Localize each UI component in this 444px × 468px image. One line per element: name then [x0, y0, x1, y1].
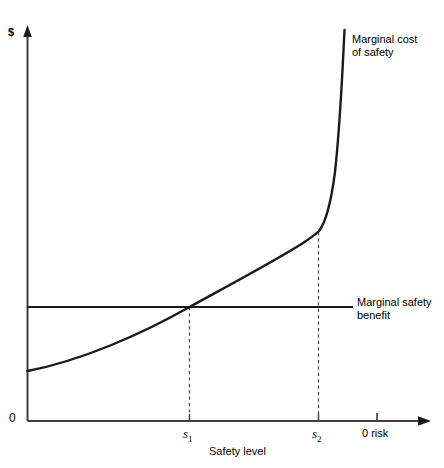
marginal-cost-line-2: of safety	[352, 46, 417, 59]
y-axis-arrowhead	[23, 25, 32, 37]
marginal-cost-line-1: Marginal cost	[352, 33, 417, 46]
x-axis-arrowhead	[418, 416, 431, 425]
marginal-safety-benefit-label: Marginal safety benefit	[357, 296, 432, 322]
x-tick-label-s1: s1	[183, 426, 193, 444]
marginal-benefit-line-2: benefit	[357, 309, 432, 322]
x-tick-label-s2: s2	[312, 426, 322, 444]
marginal-cost-of-safety-label: Marginal cost of safety	[352, 33, 417, 59]
chart-plot-area	[0, 0, 444, 468]
x-tick-s1-subscript: 1	[188, 434, 193, 444]
x-tick-s2-subscript: 2	[317, 434, 322, 444]
x-tick-label-zero-risk: 0 risk	[362, 427, 388, 439]
chart-figure: $ 0 Marginal cost of safety Marginal saf…	[0, 0, 444, 468]
x-axis-title: Safety level	[209, 445, 266, 458]
marginal-benefit-line-1: Marginal safety	[357, 296, 432, 309]
origin-label: 0	[9, 412, 16, 425]
y-axis-label: $	[8, 26, 14, 39]
marginal-cost-of-safety-curve	[28, 30, 345, 371]
